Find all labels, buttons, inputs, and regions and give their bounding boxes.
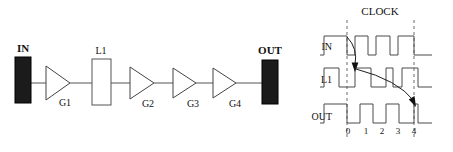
circuit-diagram: IN G1 L1 G2 G3 G4 OUT [0, 0, 300, 152]
timing-diagram: CLOCK IN L1 OUT 0 1 2 3 4 [298, 0, 453, 152]
propagation-arrow-l1-to-out-head [409, 96, 416, 107]
tick-label-1: 1 [364, 126, 369, 136]
input-terminal-label: IN [17, 42, 29, 54]
latch-l1-box[interactable] [92, 59, 111, 105]
gate-g2[interactable] [130, 67, 154, 99]
gate-g3-label: G3 [187, 98, 199, 109]
gate-g2-label: G2 [142, 98, 154, 109]
output-terminal-block [262, 60, 278, 104]
waveform-in [320, 36, 432, 55]
tick-label-4: 4 [412, 126, 417, 136]
waveform-l1 [320, 68, 432, 87]
gate-g1-label: G1 [59, 97, 71, 108]
input-terminal-block [15, 57, 31, 103]
tick-label-3: 3 [396, 126, 401, 136]
output-terminal-label: OUT [258, 44, 283, 56]
propagation-arrow-l1-to-out [356, 69, 414, 101]
figure-root: IN G1 L1 G2 G3 G4 OUT CLOCK IN L1 [0, 0, 453, 152]
timing-row-label-l1: L1 [321, 74, 332, 85]
gate-g4[interactable] [213, 68, 236, 98]
tick-label-2: 2 [380, 126, 385, 136]
tick-label-0: 0 [346, 126, 351, 136]
propagation-arrow-in-to-l1-head [352, 63, 359, 73]
latch-l1-label: L1 [95, 45, 106, 56]
timing-row-label-in: IN [321, 41, 332, 52]
gate-g3[interactable] [173, 68, 196, 98]
gate-g1[interactable] [46, 66, 70, 100]
timing-title: CLOCK [361, 5, 398, 17]
waveform-out [320, 104, 432, 123]
gate-g4-label: G4 [229, 98, 241, 109]
propagation-arrow-in-to-l1 [347, 37, 356, 65]
timing-row-label-out: OUT [311, 111, 332, 122]
